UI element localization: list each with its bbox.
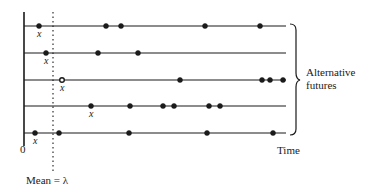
event-dot <box>207 104 212 109</box>
future-timeline-4: x <box>24 104 286 120</box>
event-dot <box>258 24 263 29</box>
futures-group: xxxxx <box>24 24 286 147</box>
event-dot <box>96 51 101 56</box>
first-event-x-label: x <box>59 82 65 93</box>
event-dot <box>119 24 124 29</box>
first-event-x-label: x <box>43 55 49 66</box>
future-timeline-5: x <box>24 131 286 147</box>
event-dot <box>57 131 62 136</box>
alternative-futures-diagram: xxxxx Alternative futures 0 Time Mean = … <box>0 0 372 194</box>
first-event-x-label: x <box>88 108 94 119</box>
brace-label-line2: futures <box>306 79 337 91</box>
event-dot <box>128 104 133 109</box>
event-dot <box>178 78 183 83</box>
event-dot <box>268 78 273 83</box>
first-event-x-label: x <box>36 28 42 39</box>
event-dot <box>271 131 276 136</box>
event-dot <box>172 104 177 109</box>
event-dot <box>104 24 109 29</box>
future-timeline-1: x <box>24 24 286 40</box>
future-timeline-2: x <box>24 51 286 67</box>
time-axis-label: Time <box>277 144 300 156</box>
origin-zero-label: 0 <box>20 143 26 155</box>
event-dot <box>260 78 265 83</box>
event-dot <box>203 24 208 29</box>
event-dot <box>136 51 141 56</box>
brace-label-line1: Alternative <box>306 66 356 78</box>
event-dot <box>127 131 132 136</box>
event-dot <box>281 78 286 83</box>
mean-lambda-label: Mean = λ <box>26 174 69 186</box>
event-dot <box>205 131 210 136</box>
first-event-x-label: x <box>32 135 38 146</box>
right-brace <box>290 24 300 135</box>
event-dot <box>218 104 223 109</box>
future-timeline-3: x <box>24 78 286 94</box>
event-dot <box>161 104 166 109</box>
